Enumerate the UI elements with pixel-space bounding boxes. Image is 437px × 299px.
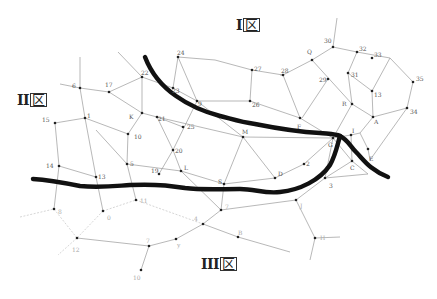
node-label: Q [307,48,312,55]
road-node [223,183,226,186]
node-label: K [129,113,134,120]
road-node [141,76,144,79]
node-label: 27 [254,65,262,72]
road-node [371,57,374,60]
road-node [332,46,335,49]
zone-i-char: 区 [243,18,260,32]
node-label: 31 [351,71,359,78]
road-node [274,177,277,180]
node-label: A [373,118,379,125]
node-label: 3 [329,182,333,189]
node-label: I [352,127,355,134]
road-node [251,69,254,72]
node-label: 4 [194,215,198,222]
road-node [282,74,285,77]
node-label: 15 [42,116,50,123]
road-node [135,199,138,202]
node-label: 7 [146,237,150,244]
road-node [54,122,57,125]
node-label: C [350,164,355,171]
road-node [327,78,330,81]
node-label: 23 [172,87,180,94]
road-node [367,148,370,151]
zone-i-numeral: I [236,17,242,33]
road-node [299,117,302,120]
road-node [202,223,205,226]
road-node [249,100,252,103]
node-label: 9 [198,100,202,107]
road-node [237,236,240,239]
node-label: F [297,123,301,130]
road-node [347,72,350,75]
node-label: 11 [140,197,148,204]
node-labels: 6172224232728Q30322931333513151K10926212… [42,37,424,281]
node-label: 10 [134,133,142,140]
zone-iii-char: 区 [220,257,237,271]
road-node [295,199,298,202]
road-node [303,163,306,166]
road-node [108,91,111,94]
road-node [175,238,178,241]
node-label: 13 [98,173,106,180]
zone-ii-numeral: II [17,92,29,108]
zone-iii-label: III区 [201,256,237,272]
road-node [79,87,82,90]
node-label: E [369,155,373,162]
road-node [76,237,79,240]
road-node [182,126,185,129]
road-node [350,134,353,137]
road-node [58,165,61,168]
node-label: 34 [410,108,418,115]
node-label: B [238,229,243,236]
road-node [412,81,415,84]
node-label: H [320,234,325,241]
node-label: 10 [133,274,141,281]
road-node [102,210,105,213]
node-label: 24 [177,49,185,56]
node-label: R [342,100,347,107]
road-node [332,137,335,140]
road-node [351,160,354,163]
road-node [356,51,359,54]
node-label: 7 [225,203,229,210]
road-node [220,209,223,212]
node-label: 26 [252,101,260,108]
node-label: 19 [151,167,159,174]
road-node [84,117,87,120]
road-node [324,177,327,180]
road-node [126,163,129,166]
zone-ii-char: 区 [30,93,47,107]
road-node [371,90,374,93]
node-label: M [242,128,248,135]
road-node [53,208,56,211]
node-label: 17 [105,81,113,88]
node-label: S [218,178,222,185]
road-node [314,237,317,240]
node-label: 14 [46,162,54,169]
node-label: 21 [158,115,166,122]
node-label: 20 [175,147,183,154]
road-node [180,170,183,173]
road-node [177,56,180,59]
node-label: 35 [416,75,424,82]
node-label: D [278,170,283,177]
node-label: 12 [72,246,80,253]
node-label: 28 [281,67,289,74]
road-node [127,133,130,136]
road-node [406,107,409,110]
node-label: G [328,141,333,148]
zone-i-label: I区 [236,17,260,33]
road-node [141,112,144,115]
node-label: 32 [359,45,367,52]
node-label: 8 [58,208,62,215]
node-label: 2 [306,160,310,167]
zone-ii-label: II区 [17,92,47,108]
node-label: 33 [374,51,382,58]
road-node [148,245,151,248]
road-node [242,136,245,139]
road-edges [20,18,413,270]
road-node [95,176,98,179]
road-node [311,59,314,62]
road-node [172,149,175,152]
node-label: L [184,164,188,171]
